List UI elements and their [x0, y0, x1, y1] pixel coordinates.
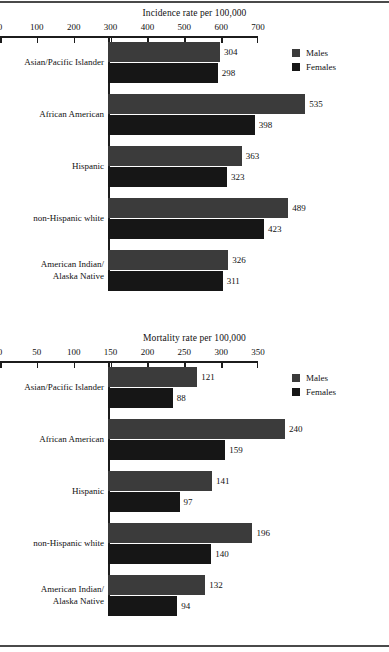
category-label: African American	[0, 109, 104, 121]
bar-value-label: 88	[177, 393, 186, 403]
category-label-line: African American	[0, 109, 104, 121]
category-label: Hispanic	[0, 161, 104, 173]
legend-swatch-males-icon	[292, 49, 300, 57]
page-bottom-rule	[0, 645, 389, 647]
legend-item-females: Females	[292, 385, 336, 399]
category-label: American Indian/Alaska Native	[0, 584, 104, 607]
x-axis-tick-label: 600	[214, 22, 228, 32]
x-axis-tick-mark	[37, 363, 39, 368]
category-label-line: non-Hispanic white	[0, 213, 104, 225]
category-label-line: Alaska Native	[0, 596, 104, 608]
legend-label: Females	[306, 387, 336, 397]
bar-value-label: 398	[259, 120, 273, 130]
bar-value-label: 97	[184, 497, 193, 507]
chart-legend: MalesFemales	[292, 371, 336, 399]
x-axis-tick-label: 700	[251, 22, 265, 32]
bar-females	[108, 440, 225, 460]
category-label-line: Asian/Pacific Islander	[0, 382, 104, 394]
bar-males	[108, 94, 305, 114]
category-label: Asian/Pacific Islander	[0, 382, 104, 394]
x-axis-tick-mark	[257, 38, 259, 43]
x-axis-tick-mark	[0, 38, 2, 43]
x-axis-tick-label: 0	[0, 347, 2, 357]
chart-mortality: Mortality rate per 100,000 0501001502002…	[0, 333, 389, 643]
bar-value-label: 423	[268, 224, 282, 234]
bar-males	[108, 575, 205, 595]
category-label-line: Hispanic	[0, 161, 104, 173]
bar-females	[108, 63, 218, 83]
page-top-rule	[0, 1, 389, 3]
x-axis-tick-mark	[221, 38, 223, 43]
bar-females	[108, 596, 177, 616]
chart-title-incidence: Incidence rate per 100,000	[0, 8, 389, 18]
bar-females	[108, 544, 211, 564]
x-axis-tick-labels: 050100150200250300350	[0, 347, 258, 360]
category-label: Asian/Pacific Islander	[0, 57, 104, 69]
category-label-line: Alaska Native	[0, 271, 104, 283]
category-label-line: Asian/Pacific Islander	[0, 57, 104, 69]
chart-incidence: Incidence rate per 100,000 0100200300400…	[0, 8, 389, 318]
bar-value-label: 304	[224, 47, 238, 57]
bar-females	[108, 167, 227, 187]
x-axis-tick-label: 300	[214, 347, 228, 357]
legend-item-females: Females	[292, 60, 336, 74]
category-label: Hispanic	[0, 486, 104, 498]
bar-males	[108, 42, 220, 62]
bar-females	[108, 388, 173, 408]
legend-swatch-females-icon	[292, 63, 300, 71]
bar-value-label: 141	[216, 476, 230, 486]
bar-value-label: 121	[201, 372, 215, 382]
chart-page: { "page": { "rule_color": "#4a4a4a" }, "…	[0, 0, 389, 652]
x-axis-tick-mark	[74, 38, 76, 43]
legend-item-males: Males	[292, 371, 336, 385]
bar-females	[108, 219, 264, 239]
bar-females	[108, 271, 223, 291]
x-axis-tick-label: 100	[67, 347, 81, 357]
x-axis-tick-label: 250	[178, 347, 192, 357]
bar-value-label: 94	[181, 601, 190, 611]
x-axis-tick-label: 400	[141, 22, 155, 32]
bar-males	[108, 523, 252, 543]
bar-value-label: 535	[309, 99, 323, 109]
category-label: African American	[0, 434, 104, 446]
x-axis-tick-mark	[74, 363, 76, 368]
category-label: American Indian/Alaska Native	[0, 259, 104, 282]
legend-item-males: Males	[292, 46, 336, 60]
chart-title-mortality: Mortality rate per 100,000	[0, 333, 389, 343]
bar-value-label: 298	[222, 68, 236, 78]
legend-label: Males	[306, 48, 328, 58]
bar-males	[108, 198, 288, 218]
x-axis-tick-label: 0	[0, 22, 2, 32]
x-axis-tick-label: 350	[251, 347, 265, 357]
x-axis-tick-mark	[0, 363, 2, 368]
bar-males	[108, 250, 228, 270]
bar-value-label: 326	[232, 255, 246, 265]
bar-females	[108, 115, 255, 135]
bar-males	[108, 471, 212, 491]
x-axis-tick-label: 100	[30, 22, 44, 32]
x-axis-tick-labels: 0100200300400500600700	[0, 22, 258, 35]
x-axis-tick-mark	[37, 38, 39, 43]
category-label-line: American Indian/	[0, 584, 104, 596]
bar-value-label: 159	[229, 445, 243, 455]
category-label-line: Hispanic	[0, 486, 104, 498]
bar-females	[108, 492, 180, 512]
category-label-line: African American	[0, 434, 104, 446]
x-axis-tick-label: 200	[67, 22, 81, 32]
bar-value-label: 140	[215, 549, 229, 559]
bar-value-label: 132	[209, 580, 223, 590]
bar-value-label: 489	[292, 203, 306, 213]
bar-males	[108, 367, 197, 387]
bar-value-label: 363	[246, 151, 260, 161]
legend-swatch-females-icon	[292, 388, 300, 396]
legend-label: Females	[306, 62, 336, 72]
x-axis-tick-label: 200	[141, 347, 155, 357]
bar-value-label: 196	[256, 528, 270, 538]
category-label-line: American Indian/	[0, 259, 104, 271]
x-axis-tick-label: 300	[104, 22, 118, 32]
x-axis-tick-mark	[221, 363, 223, 368]
category-label: non-Hispanic white	[0, 538, 104, 550]
x-axis-tick-label: 50	[32, 347, 41, 357]
category-label-line: non-Hispanic white	[0, 538, 104, 550]
bar-value-label: 323	[231, 172, 245, 182]
